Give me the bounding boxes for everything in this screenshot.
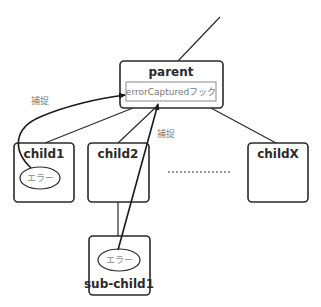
child1-error-label: エラー [27,173,54,183]
error-captured-hook-label: errorCapturedフック [126,87,216,97]
child1-label: child1 [24,147,65,161]
edge-parent-child1 [45,108,133,143]
subchild1-error-label: エラー [106,255,133,265]
parent-upstream-edge [178,17,220,61]
node-childX: childX [248,143,308,202]
node-parent: parent errorCapturedフック [120,61,223,108]
parent-label: parent [148,65,193,79]
component-error-diagram: parent errorCapturedフック child1 エラー child… [0,0,321,307]
edge-parent-childX [211,108,276,143]
child2-label: child2 [98,147,139,161]
capture-label-left: 捕捉 [31,95,49,106]
capture-label-right: 捕捉 [157,128,175,139]
node-child1: child1 エラー [14,143,74,202]
subchild1-label: sub-child1 [84,277,154,291]
childX-label: childX [257,147,299,161]
